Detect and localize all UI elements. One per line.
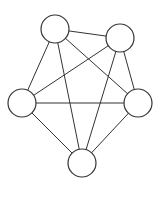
nodes-group bbox=[8, 15, 152, 177]
node-left bbox=[8, 89, 36, 117]
complete-graph-diagram bbox=[0, 0, 163, 209]
node-top-right bbox=[106, 24, 134, 52]
node-top-left bbox=[41, 15, 69, 43]
edge-top-right-bottom bbox=[82, 38, 120, 163]
node-bottom bbox=[68, 149, 96, 177]
node-right bbox=[124, 89, 152, 117]
